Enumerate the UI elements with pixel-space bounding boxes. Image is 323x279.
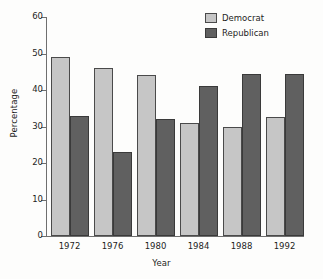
bar-democrat-1992	[266, 117, 285, 236]
legend-label-republican: Republican	[222, 28, 269, 38]
x-axis-line	[46, 236, 304, 237]
y-tick-label: 10	[32, 194, 43, 204]
y-tick-label: 50	[32, 48, 43, 58]
y-tick-label: 40	[32, 84, 43, 94]
y-axis-line	[46, 17, 47, 237]
y-tick-label: 60	[32, 11, 43, 21]
bar-republican-1976	[113, 152, 132, 236]
bar-group	[51, 17, 89, 236]
legend-swatch-republican	[205, 28, 217, 38]
bar-republican-1972	[70, 116, 89, 236]
bar-group	[266, 17, 304, 236]
y-tick-label: 20	[32, 157, 43, 167]
bar-democrat-1976	[94, 68, 113, 236]
bar-group	[223, 17, 261, 236]
bar-democrat-1972	[51, 57, 70, 236]
bar-democrat-1984	[180, 123, 199, 236]
y-axis-title: Percentage	[9, 68, 19, 158]
bar-republican-1980	[156, 119, 175, 236]
bar-chart-figure: Percentage Year 0102030405060 1972197619…	[0, 0, 323, 279]
plot-area: 0102030405060 197219761980198419881992	[46, 17, 304, 237]
bar-republican-1984	[199, 86, 218, 236]
legend-item-democrat[interactable]: Democrat	[205, 10, 269, 25]
chart-legend: DemocratRepublican	[205, 10, 269, 40]
bar-group	[180, 17, 218, 236]
bar-republican-1992	[285, 74, 304, 236]
legend-item-republican[interactable]: Republican	[205, 25, 269, 40]
bar-group	[137, 17, 175, 236]
bar-republican-1988	[242, 74, 261, 236]
x-tick-label-1992: 1992	[255, 241, 315, 251]
legend-label-democrat: Democrat	[222, 13, 264, 23]
bar-democrat-1988	[223, 127, 242, 237]
bar-group	[94, 17, 132, 236]
x-axis-title: Year	[0, 258, 323, 268]
bar-democrat-1980	[137, 75, 156, 236]
legend-swatch-democrat	[205, 13, 217, 23]
y-tick-label: 30	[32, 121, 43, 131]
y-tick-label: 0	[38, 230, 43, 240]
